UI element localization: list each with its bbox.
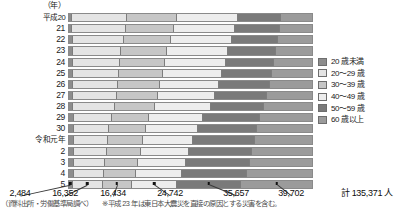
- bar-segment: [186, 159, 250, 166]
- bar-segment: [74, 148, 107, 155]
- bar-segment: [252, 148, 312, 155]
- bar-segment: [73, 47, 122, 54]
- stacked-bar-chart: （年） 平成2021222324252627282930令和元年2345 計 1…: [0, 0, 395, 209]
- bar-row: [68, 68, 313, 79]
- bar-segment: [182, 170, 248, 177]
- bar-segment: [126, 25, 175, 32]
- bar-rows: [68, 12, 313, 190]
- legend-item[interactable]: 20 歳未満: [318, 56, 394, 68]
- legend-swatch: [318, 58, 327, 66]
- bar-segment: [228, 47, 275, 54]
- bar-segment: [278, 36, 312, 43]
- value-label: 16,352: [52, 188, 78, 199]
- bar-segment: [74, 159, 106, 166]
- value-label: 35,657: [223, 188, 249, 199]
- bar-segment: [260, 114, 312, 121]
- y-axis-label: 4: [0, 168, 66, 179]
- bar-row: [68, 146, 313, 157]
- y-axis-label: 29: [0, 112, 66, 123]
- bar-segment: [73, 103, 114, 110]
- stacked-bar: [68, 147, 313, 156]
- bar-row: [68, 157, 313, 168]
- bar-segment: [73, 92, 117, 99]
- footnote-note: ※平成 23 年は東日本大震災を直接の原因とする災害を含む。: [102, 199, 281, 208]
- bar-segment: [120, 59, 165, 66]
- bar-segment: [198, 125, 258, 132]
- stacked-bar: [68, 135, 313, 144]
- bar-segment: [264, 103, 312, 110]
- bar-segment: [107, 148, 141, 155]
- bar-segment: [74, 170, 104, 177]
- stacked-bar: [68, 13, 313, 22]
- bar-segment: [73, 181, 102, 188]
- bar-segment: [167, 47, 228, 54]
- bar-segment: [115, 103, 155, 110]
- y-axis-label: 25: [0, 68, 66, 79]
- bar-segment: [143, 136, 193, 143]
- bar-segment: [112, 114, 150, 121]
- bar-segment: [238, 14, 282, 21]
- bar-segment: [280, 25, 312, 32]
- legend-label: 30～39 歳: [331, 80, 364, 89]
- plot-area: [68, 12, 313, 190]
- legend-swatch: [318, 69, 327, 77]
- bar-segment: [226, 59, 275, 66]
- bar-segment: [215, 92, 267, 99]
- bar-segment: [121, 47, 167, 54]
- bar-segment: [222, 70, 272, 77]
- bar-row: [68, 123, 313, 134]
- bar-segment: [146, 125, 198, 132]
- y-axis-label: 平成20: [0, 12, 66, 23]
- bar-row: [68, 90, 313, 101]
- legend-item[interactable]: 60 歳以上: [318, 114, 394, 126]
- value-label: 39,702: [278, 188, 304, 199]
- bar-segment: [74, 125, 109, 132]
- y-axis-unit-label: （年）: [0, 1, 66, 10]
- bar-row: [68, 168, 313, 179]
- bar-segment: [72, 14, 127, 21]
- bar-segment: [177, 14, 238, 21]
- legend-swatch: [318, 116, 327, 124]
- bar-segment: [270, 81, 312, 88]
- bar-segment: [158, 92, 215, 99]
- bar-row: [68, 34, 313, 45]
- bar-segment: [103, 181, 132, 188]
- bar-segment: [219, 81, 270, 88]
- y-axis-label: 27: [0, 90, 66, 101]
- legend-label: 40～49 歳: [331, 92, 364, 101]
- bar-row: [68, 57, 313, 68]
- bar-segment: [138, 159, 185, 166]
- bar-segment: [74, 114, 112, 121]
- legend: 20 歳未満20～29 歳30～39 歳40～49 歳50～59 歳60 歳以上: [318, 56, 394, 126]
- bar-segment: [132, 181, 176, 188]
- bar-segment: [177, 181, 241, 188]
- bar-segment: [235, 25, 280, 32]
- bar-segment: [272, 70, 312, 77]
- bar-segment: [160, 81, 218, 88]
- legend-item[interactable]: 50～59 歳: [318, 102, 394, 114]
- bar-segment: [105, 159, 138, 166]
- legend-item[interactable]: 40～49 歳: [318, 91, 394, 103]
- bar-segment: [118, 81, 161, 88]
- legend-item[interactable]: 20～29 歳: [318, 68, 394, 80]
- footnote-source: （資料出所・労働基準局調べ）: [1, 199, 92, 208]
- y-axis-label: 21: [0, 23, 66, 34]
- bar-segment: [193, 136, 255, 143]
- bar-segment: [267, 92, 311, 99]
- legend-swatch: [318, 93, 327, 101]
- bar-row: [68, 45, 313, 56]
- bar-segment: [109, 125, 145, 132]
- stacked-bar: [68, 158, 313, 167]
- legend-item[interactable]: 30～39 歳: [318, 79, 394, 91]
- y-axis-label: 26: [0, 79, 66, 90]
- y-axis-label: 24: [0, 57, 66, 68]
- bar-segment: [163, 70, 223, 77]
- value-label: 24,742: [157, 188, 183, 199]
- bar-segment: [73, 36, 124, 43]
- bar-segment: [74, 136, 108, 143]
- bar-row: [68, 112, 313, 123]
- y-axis-label: 22: [0, 34, 66, 45]
- y-axis-label: 3: [0, 157, 66, 168]
- y-axis-label: 2: [0, 146, 66, 157]
- bar-row: [68, 79, 313, 90]
